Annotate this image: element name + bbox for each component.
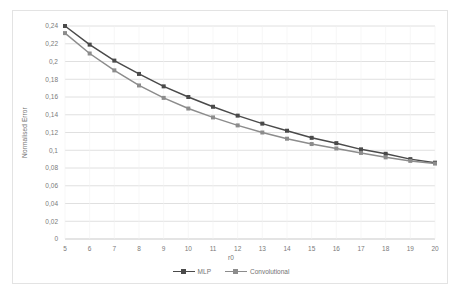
legend-label-mlp: MLP [198, 268, 211, 275]
x-tick-label: 15 [308, 245, 316, 252]
y-tick-label: 0,22 [45, 40, 58, 47]
data-point [260, 131, 264, 135]
series-line-mlp [65, 26, 435, 163]
legend-marker-convolutional [225, 267, 247, 275]
data-point [260, 122, 264, 126]
data-point [186, 107, 190, 111]
y-tick-label: 0,1 [49, 147, 58, 154]
data-point [162, 84, 166, 88]
y-tick-label: 0,2 [49, 58, 58, 65]
x-tick-label: 13 [259, 245, 267, 252]
x-tick-label: 20 [431, 245, 439, 252]
legend-marker-mlp [173, 267, 195, 275]
data-point [384, 155, 388, 159]
y-tick-label: 0,16 [45, 93, 58, 100]
y-tick-label: 0,24 [45, 22, 58, 29]
series-line-convolutional [65, 33, 435, 163]
x-tick-label: 10 [185, 245, 193, 252]
x-tick-label: 11 [210, 245, 217, 252]
y-tick-label: 0,14 [45, 111, 58, 118]
x-tick-label: 7 [113, 245, 117, 252]
data-point [334, 141, 338, 145]
y-tick-label: 0,04 [45, 200, 58, 207]
data-point [63, 31, 67, 35]
x-tick-label: 16 [333, 245, 341, 252]
data-point [359, 147, 363, 151]
plot-area: 00,020,040,060,080,10,120,140,160,180,20… [13, 11, 447, 283]
data-point [236, 123, 240, 127]
y-axis-title: Normalised Error [21, 78, 28, 188]
legend-item-mlp[interactable]: MLP [173, 267, 211, 275]
x-tick-label: 9 [162, 245, 166, 252]
data-point [162, 96, 166, 100]
data-point [88, 43, 92, 47]
data-point [137, 83, 141, 87]
x-tick-label: 18 [382, 245, 390, 252]
y-tick-label: 0,18 [45, 76, 58, 83]
data-point [384, 152, 388, 156]
x-tick-label: 12 [234, 245, 242, 252]
data-point [112, 68, 116, 72]
x-tick-label: 6 [88, 245, 92, 252]
data-point [408, 159, 412, 163]
y-tick-label: 0 [54, 235, 58, 242]
chart-legend: MLP Convolutional [13, 267, 449, 275]
chart-container: 00,020,040,060,080,10,120,140,160,180,20… [12, 10, 448, 284]
data-point [310, 142, 314, 146]
x-tick-label: 14 [283, 245, 291, 252]
data-point [88, 52, 92, 56]
x-tick-label: 19 [407, 245, 415, 252]
y-tick-label: 0,06 [45, 182, 58, 189]
y-tick-label: 0,02 [45, 218, 58, 225]
data-point [63, 24, 67, 28]
x-tick-label: 8 [137, 245, 141, 252]
data-point [285, 137, 289, 141]
line-chart: 00,020,040,060,080,10,120,140,160,180,20… [13, 11, 449, 285]
y-tick-label: 0,12 [45, 129, 58, 136]
y-tick-label: 0,08 [45, 164, 58, 171]
x-tick-label: 5 [63, 245, 67, 252]
legend-item-convolutional[interactable]: Convolutional [225, 267, 289, 275]
data-point [310, 136, 314, 140]
data-point [433, 162, 437, 166]
data-point [211, 115, 215, 119]
data-point [186, 95, 190, 99]
data-point [236, 114, 240, 118]
data-point [334, 146, 338, 150]
legend-label-convolutional: Convolutional [250, 268, 289, 275]
data-point [137, 72, 141, 76]
data-point [285, 129, 289, 133]
x-tick-label: 17 [357, 245, 365, 252]
x-axis-title: r0 [13, 254, 449, 261]
data-point [359, 151, 363, 155]
data-point [211, 105, 215, 109]
data-point [112, 59, 116, 63]
